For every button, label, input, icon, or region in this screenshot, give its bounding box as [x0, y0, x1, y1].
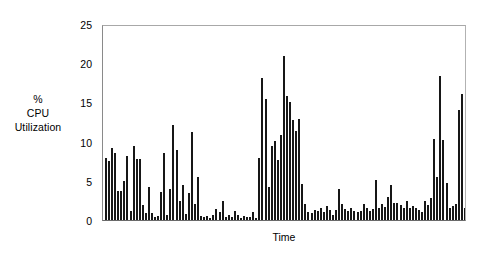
bar	[353, 211, 355, 220]
bar	[433, 139, 435, 220]
bar	[261, 78, 263, 220]
bar	[332, 215, 334, 220]
bar	[139, 159, 141, 220]
bar	[442, 140, 444, 220]
bar	[169, 189, 171, 220]
bar	[301, 184, 303, 220]
bar	[265, 99, 267, 220]
bar	[424, 201, 426, 220]
bar	[393, 203, 395, 220]
bar	[194, 204, 196, 220]
bar	[304, 204, 306, 220]
bar	[148, 187, 150, 220]
bar	[252, 212, 254, 220]
bar	[292, 120, 294, 220]
bar	[390, 185, 392, 220]
bar	[268, 187, 270, 220]
bar	[136, 159, 138, 220]
bar	[258, 158, 260, 220]
bar	[338, 189, 340, 220]
bar	[185, 214, 187, 220]
bar	[400, 205, 402, 220]
bar	[409, 208, 411, 220]
y-axis-tick-0: 0	[86, 216, 92, 227]
bar	[298, 119, 300, 220]
bar	[200, 216, 202, 220]
bar	[114, 153, 116, 221]
y-axis-tick-15: 15	[80, 98, 92, 109]
bar	[271, 146, 273, 220]
bar	[111, 148, 113, 220]
bar	[418, 210, 420, 220]
bar	[295, 131, 297, 220]
bar	[231, 217, 233, 220]
bar	[378, 208, 380, 220]
bar	[274, 141, 276, 220]
bar	[240, 218, 242, 220]
bar	[384, 207, 386, 220]
bar	[203, 217, 205, 220]
bar	[427, 205, 429, 220]
bar	[188, 193, 190, 220]
bar	[289, 102, 291, 220]
y-axis-tick-20: 20	[80, 59, 92, 70]
bar	[314, 210, 316, 220]
bar	[160, 192, 162, 220]
bar	[430, 198, 432, 220]
bar	[154, 217, 156, 220]
y-axis-tick-labels: 0510152025	[0, 0, 100, 257]
bar	[228, 215, 230, 220]
bar	[108, 161, 110, 220]
bar	[307, 212, 309, 220]
bar	[458, 110, 460, 220]
bar	[403, 208, 405, 220]
bar	[182, 185, 184, 220]
bar	[123, 181, 125, 220]
x-axis-label: Time	[102, 231, 466, 243]
bar	[421, 212, 423, 220]
bar	[320, 208, 322, 220]
bar	[335, 210, 337, 220]
bar	[142, 205, 144, 220]
bar	[439, 76, 441, 220]
bar	[145, 213, 147, 220]
bar	[215, 209, 217, 220]
bar	[311, 213, 313, 220]
bar	[176, 150, 178, 220]
bar	[157, 216, 159, 220]
bar	[246, 217, 248, 220]
bar	[179, 201, 181, 220]
bar	[317, 211, 319, 220]
bar	[381, 204, 383, 220]
bar	[369, 211, 371, 220]
bar	[237, 215, 239, 220]
bar	[357, 212, 359, 220]
bar	[163, 153, 165, 220]
bar	[326, 206, 328, 220]
bar	[455, 204, 457, 220]
bar	[130, 211, 132, 220]
bar	[341, 204, 343, 220]
bar	[243, 216, 245, 220]
bar	[120, 191, 122, 220]
bar	[415, 208, 417, 220]
bar	[280, 135, 282, 220]
cpu-utilization-bar-chart: % CPU Utilization 0510152025 Time	[0, 0, 486, 257]
bar	[255, 218, 257, 220]
bar	[406, 201, 408, 220]
bar	[222, 201, 224, 220]
bar	[366, 208, 368, 220]
bar	[209, 218, 211, 220]
bar	[446, 183, 448, 220]
bar	[461, 94, 463, 220]
bar	[249, 217, 251, 220]
bar	[360, 211, 362, 220]
bar	[172, 125, 174, 220]
y-axis-tick-25: 25	[80, 20, 92, 31]
bar-series	[103, 26, 465, 220]
bar	[234, 211, 236, 220]
bar	[191, 132, 193, 220]
bar	[347, 211, 349, 220]
bar	[133, 146, 135, 220]
bar	[344, 209, 346, 220]
